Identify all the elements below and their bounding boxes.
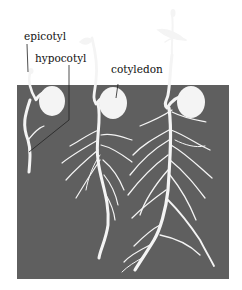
- leader-line-epicotyl: [27, 44, 28, 72]
- seedling-diagram: epicotyl hypocotyl cotyledon: [0, 0, 242, 290]
- cotyledon-stage-3: [177, 86, 205, 118]
- label-epicotyl: epicotyl: [24, 31, 66, 42]
- cotyledon-stage-1: [39, 86, 65, 116]
- diagram-artwork: [0, 0, 242, 290]
- label-cotyledon: cotyledon: [111, 64, 163, 75]
- label-hypocotyl: hypocotyl: [35, 53, 86, 64]
- cotyledon-stage-2: [99, 87, 127, 119]
